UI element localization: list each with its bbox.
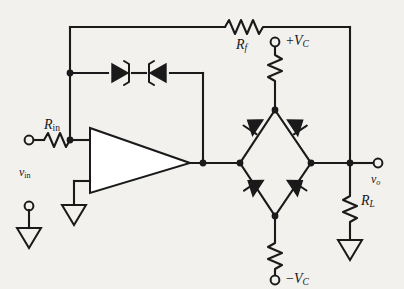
- circuit-schematic: [0, 0, 404, 289]
- junction-bridge-bottom: [272, 213, 279, 220]
- feedback-resistor-symbol: [225, 20, 265, 34]
- op-amp-symbol: [90, 128, 190, 193]
- positive-supply-branch: [268, 38, 282, 85]
- wire-bridge-top-right-edge: [275, 110, 311, 163]
- feedback-resistor-label: Rf: [236, 38, 247, 54]
- ground-symbol-input: [17, 228, 41, 248]
- negative-supply-terminal-circle: [271, 276, 280, 285]
- output-terminal-circle: [374, 159, 383, 168]
- positive-supply-label: +VC: [286, 34, 309, 50]
- load-resistor-symbol: [343, 192, 357, 240]
- input-voltage-label: vin: [19, 166, 31, 180]
- junction-opamp-output: [200, 160, 207, 167]
- ground-symbol-opamp: [62, 205, 86, 225]
- input-resistor-symbol: [44, 133, 70, 147]
- junction-bridge-right: [308, 160, 315, 167]
- negative-supply-label: −VC: [286, 272, 309, 288]
- wire-bridge-top-left-edge: [240, 110, 275, 163]
- circuit-diagram-figure: Rin Rf RL vin vo +VC −VC: [0, 0, 404, 289]
- load-resistor-label: RL: [361, 194, 375, 210]
- output-voltage-label: vo: [371, 173, 380, 187]
- junction-bridge-top: [272, 107, 279, 114]
- junction-zener-input: [67, 70, 74, 77]
- negative-supply-resistor-symbol: [268, 240, 282, 272]
- positive-supply-terminal-circle: [271, 38, 280, 47]
- input-resistor-label: Rin: [44, 118, 60, 134]
- input-terminal-circle: [25, 136, 34, 145]
- diode-bridge: [240, 85, 350, 240]
- ground-symbol-load: [338, 240, 362, 260]
- input-branch: [34, 133, 90, 147]
- junction-inverting-input: [67, 137, 74, 144]
- junction-output: [347, 160, 354, 167]
- zener-diode-left-symbol: [112, 61, 129, 85]
- positive-supply-resistor-symbol: [268, 52, 282, 85]
- junction-bridge-left: [237, 160, 244, 167]
- negative-supply-branch: [268, 240, 282, 284]
- zener-diode-right-symbol: [149, 61, 166, 85]
- input-reference-ground: [17, 202, 41, 248]
